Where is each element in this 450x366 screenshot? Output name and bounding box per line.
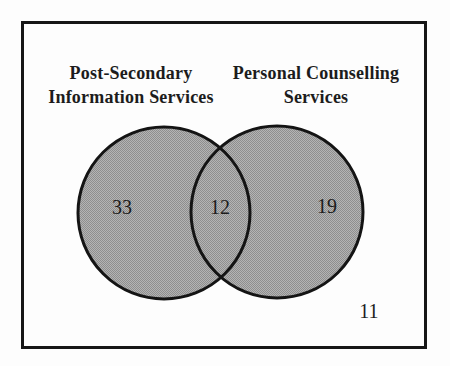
- left-set-title-line1: Post-Secondary: [33, 61, 229, 85]
- scanned-figure-page: Post-Secondary Information Services Pers…: [0, 0, 450, 366]
- outside-count: 11: [347, 299, 391, 323]
- intersection-count: 12: [198, 195, 242, 219]
- right-set-title-line1: Personal Counselling: [218, 61, 414, 85]
- left-only-count: 33: [100, 195, 144, 219]
- left-set-title: Post-Secondary Information Services: [33, 61, 229, 109]
- right-only-count: 19: [305, 194, 349, 218]
- right-set-title: Personal Counselling Services: [218, 61, 414, 109]
- left-set-title-line2: Information Services: [33, 85, 229, 109]
- right-set-title-line2: Services: [218, 85, 414, 109]
